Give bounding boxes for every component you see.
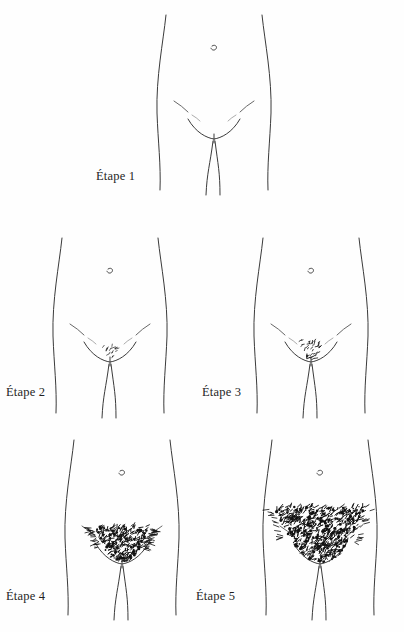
illustration-sheet: Étape 1Étape 2Étape 3Étape 4Étape 5 <box>0 0 404 632</box>
leg-inner-left <box>114 566 121 620</box>
navel-icon <box>211 45 216 50</box>
pubic-hair-patch-etape-2 <box>103 344 119 358</box>
leg-inner-right <box>111 364 116 418</box>
inguinal-crease-left <box>271 324 285 335</box>
torso-left-outline <box>263 440 272 615</box>
torso-right-outline <box>158 238 167 413</box>
torso-left-outline <box>157 15 166 190</box>
inguinal-crease-right-inner <box>124 338 132 344</box>
inguinal-crease-left-inner <box>192 115 200 121</box>
torso-right-outline <box>359 238 368 413</box>
torso-left-outline <box>254 238 263 413</box>
inguinal-crease-left-inner <box>88 338 96 344</box>
anatomical-diagram-svg: Étape 1Étape 2Étape 3Étape 4Étape 5 <box>0 0 404 632</box>
inguinal-crease-right <box>337 324 351 335</box>
torso-right-outline <box>262 15 271 190</box>
navel-icon <box>107 268 112 273</box>
figure-etape-3 <box>254 238 368 418</box>
figure-etape-2 <box>53 238 167 418</box>
panel-label-etape-3: Étape 3 <box>202 385 241 399</box>
leg-inner-right <box>215 141 220 195</box>
leg-inner-right <box>321 566 326 620</box>
torso-left-outline <box>53 238 62 413</box>
inguinal-crease-left <box>70 324 84 335</box>
panels-layer <box>53 15 377 620</box>
torso-right-outline <box>170 440 179 615</box>
pubic-hair-patch-etape-4 <box>84 523 160 562</box>
inguinal-crease-right <box>136 324 150 335</box>
inguinal-crease-right-inner <box>325 338 333 344</box>
inguinal-crease-left-inner <box>289 338 297 344</box>
figure-etape-4 <box>65 440 179 620</box>
navel-icon <box>317 470 322 475</box>
inguinal-crease-right <box>240 101 254 112</box>
leg-inner-left <box>206 141 213 195</box>
panel-label-etape-2: Étape 2 <box>6 385 45 399</box>
leg-inner-left <box>102 364 109 418</box>
panel-label-etape-1: Étape 1 <box>96 169 135 183</box>
inguinal-crease-right-inner <box>228 115 236 121</box>
figure-etape-1 <box>157 15 271 195</box>
leg-inner-left <box>303 364 310 418</box>
panel-label-etape-4: Étape 4 <box>6 589 46 603</box>
figure-etape-5 <box>263 440 377 620</box>
navel-icon <box>119 470 124 475</box>
torso-left-outline <box>65 440 74 615</box>
pubic-hair-patch-etape-5 <box>263 503 374 563</box>
leg-inner-right <box>312 364 317 418</box>
navel-icon <box>308 268 313 273</box>
leg-inner-left <box>312 566 319 620</box>
inguinal-crease-left <box>174 101 188 112</box>
labels-layer: Étape 1Étape 2Étape 3Étape 4Étape 5 <box>6 169 241 603</box>
panel-label-etape-5: Étape 5 <box>196 589 235 603</box>
torso-right-outline <box>368 440 377 615</box>
leg-inner-right <box>123 566 128 620</box>
pubic-hair-patch-etape-3 <box>299 339 321 360</box>
